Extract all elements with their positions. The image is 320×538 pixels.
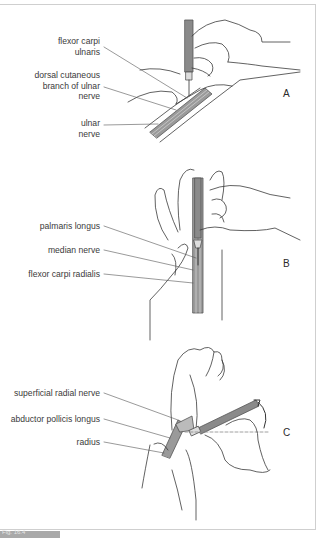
figure-caption-text: Fig. 16.4 [2, 529, 25, 535]
label-flexor-carpi-radialis: flexor carpi radialis [28, 269, 100, 280]
label-line: ulnar [79, 118, 101, 129]
label-line: flexor carpi [58, 36, 100, 47]
label-ulnar-nerve: ulnar nerve [79, 118, 101, 139]
label-flexor-carpi-ulnaris: flexor carpi ulnaris [58, 36, 100, 57]
label-dorsal-cutaneous-branch: dorsal cutaneous branch of ulnar nerve [35, 70, 100, 102]
label-line: nerve [35, 91, 100, 102]
panel-letter-b: B [283, 258, 290, 269]
label-line: ulnaris [58, 47, 100, 58]
panel-letter-c: C [283, 427, 290, 438]
panel-a-drawing [128, 20, 300, 142]
panel-c-drawing [142, 347, 270, 520]
label-line: nerve [79, 129, 101, 140]
panel-letter-a: A [283, 88, 290, 99]
label-line: branch of ulnar [35, 81, 100, 92]
label-palmaris-longus: palmaris longus [40, 221, 100, 232]
label-median-nerve: median nerve [48, 245, 100, 256]
figure-caption-tab: Fig. 16.4 [0, 531, 60, 538]
panel-b-drawing [150, 169, 300, 340]
label-radius: radius [77, 437, 100, 448]
label-superficial-radial-nerve: superficial radial nerve [14, 388, 100, 399]
label-abductor-pollicis-longus: abductor pollicis longus [11, 414, 100, 425]
label-line: dorsal cutaneous [35, 70, 100, 81]
